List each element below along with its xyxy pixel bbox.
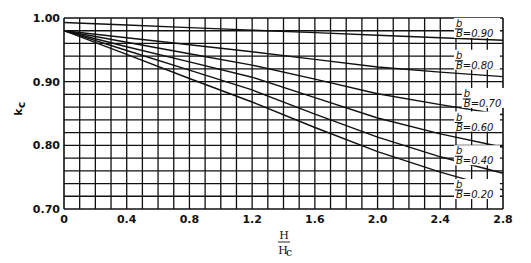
grid-lines — [64, 18, 503, 209]
x-tick-label: 0.8 — [180, 213, 200, 226]
x-axis-ticks: 00.40.81.21.62.02.42.8 — [60, 213, 513, 226]
y-tick-label: 1.00 — [33, 12, 60, 25]
label-denominator: B=0.80 — [456, 60, 494, 71]
y-axis-ticks: 0.700.800.901.00 — [33, 12, 60, 216]
chart: bB=0.90bB=0.80bB=0.70bB=0.60bB=0.40bB=0.… — [0, 0, 531, 263]
label-denominator: B=0.40 — [456, 155, 494, 166]
series-label: bB=0.70 — [462, 88, 508, 109]
x-label-numerator: H — [279, 229, 289, 242]
label-denominator: B=0.60 — [456, 122, 494, 133]
svg-text:c: c — [286, 246, 292, 259]
x-tick-label: 2.4 — [431, 213, 451, 226]
x-tick-label: 2.8 — [493, 213, 513, 226]
label-denominator: B=0.70 — [464, 98, 502, 109]
series-label: bB=0.20 — [454, 179, 500, 200]
y-tick-label: 0.80 — [33, 139, 60, 152]
series-label: bB=0.40 — [454, 145, 500, 166]
x-tick-label: 0 — [60, 213, 68, 226]
x-tick-label: 1.2 — [242, 213, 262, 226]
label-denominator: B=0.90 — [456, 28, 494, 39]
x-axis-label: HHc — [278, 229, 292, 259]
x-tick-label: 2.0 — [368, 213, 388, 226]
y-tick-label: 0.70 — [33, 203, 60, 216]
series-label: bB=0.60 — [454, 112, 500, 133]
series-label: bB=0.80 — [454, 50, 500, 71]
x-tick-label: 1.6 — [305, 213, 325, 226]
svg-text:c: c — [15, 102, 28, 109]
y-axis-label: kc — [12, 102, 28, 116]
series-label: bB=0.90 — [454, 18, 500, 39]
y-axis-label-text: kc — [12, 102, 28, 116]
label-denominator: B=0.20 — [456, 189, 494, 200]
x-tick-label: 0.4 — [117, 213, 137, 226]
y-tick-label: 0.90 — [33, 76, 60, 89]
